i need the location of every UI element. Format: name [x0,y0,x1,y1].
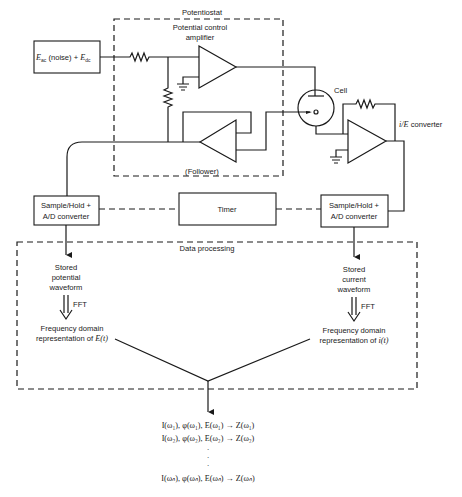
ie-converter-label: i/E converter [399,120,443,129]
svg-text:representation of E(t): representation of E(t) [36,334,108,343]
svg-text:A/D converter: A/D converter [43,212,90,221]
svg-text:Stored: Stored [55,263,77,272]
sample-hold-right-box: Sample/Hold + A/D converter [321,195,388,227]
potentiostat-label: Potentiostat [182,8,223,17]
follower-label: (Follower) [185,167,219,176]
right-processing-column: Stored current waveform FFT Frequency do… [319,265,388,345]
result-line-1: I(ω₁), φ(ω₁), E(ω₁) → Z(ω₁) [162,421,255,430]
svg-text:waveform: waveform [337,285,371,294]
svg-text:waveform: waveform [49,283,83,292]
svg-text:current: current [342,275,367,284]
potentiostat-group: Potentiostat Potential control amplifier [114,8,283,176]
follower-amplifier-icon [200,120,236,162]
control-amp-output-wire [236,67,315,96]
potential-signal-wire [67,142,200,196]
svg-text:Frequency domain: Frequency domain [41,324,104,333]
result-line-2: I(ω₂), φ(ω₂), E(ω₂) → Z(ω₂) [162,434,255,443]
fft-double-arrow-right [348,297,360,321]
follower-feedback-wire [183,112,251,142]
ie-amplifier-icon [348,120,386,163]
sample-hold-left-box: Sample/Hold + A/D converter [34,196,99,225]
data-processing-label: Data processing [180,244,235,253]
cell-label: Cell [334,86,347,95]
svg-text:Sample/Hold +: Sample/Hold + [41,201,92,210]
control-amp-label-1: Potential control [173,23,228,32]
input-wiring [100,53,199,142]
fft-label-left: FFT [73,300,87,309]
signal-source-box: Eac (noise) + Edc [34,41,100,73]
ellipsis-dot-3: · [207,461,210,470]
control-amp-label-2: amplifier [186,33,215,42]
follower-to-reference-wire [236,112,310,150]
result-line-n: I(ωₙ), φ(ωₙ), E(ωₙ) → Z(ωₙ) [161,474,255,483]
fft-double-arrow-left [60,295,72,319]
timer-box: Timer [179,193,276,225]
fft-label-right: FFT [361,302,375,311]
svg-text:potential: potential [52,273,81,282]
merge-lines [115,339,310,381]
electrochemical-cell-icon [298,90,334,126]
left-processing-column: Stored potential waveform FFT Frequency … [36,263,108,343]
svg-text:Frequency domain: Frequency domain [323,326,386,335]
svg-text:Timer: Timer [217,205,237,214]
impedance-results-list: I(ω₁), φ(ω₁), E(ω₁) → Z(ω₁) I(ω₂), φ(ω₂)… [161,421,255,483]
svg-text:representation of i(t): representation of i(t) [319,336,388,345]
svg-text:Sample/Hold +: Sample/Hold + [329,201,380,210]
impedance-measurement-diagram: Eac (noise) + Edc Potentiostat Potential… [0,0,462,497]
svg-text:A/D converter: A/D converter [331,212,378,221]
control-amplifier-icon [199,46,236,88]
svg-text:Stored: Stored [343,265,365,274]
ie-converter-group [316,100,404,211]
